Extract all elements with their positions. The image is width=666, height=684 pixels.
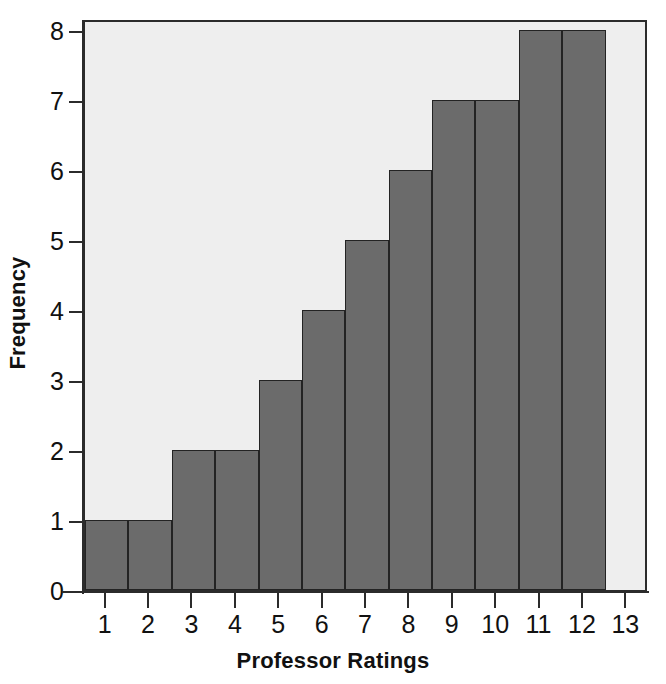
- x-axis-tick: [234, 593, 236, 608]
- histogram-bar: [389, 170, 432, 590]
- x-axis-tick-label: 3: [169, 612, 213, 637]
- x-axis-tick: [277, 593, 279, 608]
- x-axis-tick: [364, 593, 366, 608]
- y-axis-title: Frequency: [5, 233, 31, 393]
- y-axis-tick: [69, 171, 82, 173]
- x-axis-tick: [321, 593, 323, 608]
- y-axis-tick: [69, 31, 82, 33]
- y-axis-tick: [69, 311, 82, 313]
- x-axis-title: Professor Ratings: [0, 648, 666, 674]
- y-axis-tick-label: 8: [30, 19, 64, 44]
- histogram-bar: [519, 30, 562, 590]
- histogram-bar: [475, 100, 518, 590]
- x-axis-tick-label: 2: [126, 612, 170, 637]
- y-axis-tick-label: 1: [30, 509, 64, 534]
- y-axis-tick: [69, 451, 82, 453]
- x-axis-tick: [190, 593, 192, 608]
- x-axis-tick-label: 11: [517, 612, 561, 637]
- histogram-bar: [128, 520, 171, 590]
- x-axis-tick-label: 4: [213, 612, 257, 637]
- histogram-bar: [172, 450, 215, 590]
- y-axis-tick-label: 4: [30, 299, 64, 324]
- x-axis-tick: [624, 593, 626, 608]
- y-axis-tick: [69, 101, 82, 103]
- y-axis-tick: [69, 241, 82, 243]
- y-axis-tick-label: 7: [30, 89, 64, 114]
- plot-area: [83, 20, 647, 592]
- y-axis-tick-label: 3: [30, 369, 64, 394]
- histogram-bar: [215, 450, 258, 590]
- x-axis-tick-label: 7: [343, 612, 387, 637]
- histogram-bar: [345, 240, 388, 590]
- y-axis-tick-label: 0: [30, 579, 64, 604]
- y-axis-tick-label: 5: [30, 229, 64, 254]
- x-axis-tick-label: 9: [430, 612, 474, 637]
- histogram-chart: 012345678 12345678910111213 Frequency Pr…: [0, 0, 666, 684]
- x-axis-tick-label: 10: [473, 612, 517, 637]
- histogram-bar: [432, 100, 475, 590]
- x-axis-tick-label: 13: [603, 612, 647, 637]
- bars-layer: [85, 22, 645, 590]
- y-axis-tick: [69, 381, 82, 383]
- y-axis-tick: [69, 521, 82, 523]
- x-axis-tick: [104, 593, 106, 608]
- x-axis-line: [62, 591, 649, 593]
- y-axis-tick-label: 6: [30, 159, 64, 184]
- x-axis-tick: [581, 593, 583, 608]
- x-axis-tick: [147, 593, 149, 608]
- x-axis-tick: [494, 593, 496, 608]
- x-axis-tick: [407, 593, 409, 608]
- x-axis-tick: [451, 593, 453, 608]
- x-axis-tick-label: 8: [386, 612, 430, 637]
- histogram-bar: [562, 30, 605, 590]
- y-axis-tick-label: 2: [30, 439, 64, 464]
- x-axis-tick-label: 5: [256, 612, 300, 637]
- histogram-bar: [85, 520, 128, 590]
- histogram-bar: [259, 380, 302, 590]
- x-axis-tick-label: 1: [83, 612, 127, 637]
- x-axis-tick: [538, 593, 540, 608]
- y-axis-line: [82, 20, 84, 594]
- x-axis-tick-label: 12: [560, 612, 604, 637]
- x-axis-tick-label: 6: [300, 612, 344, 637]
- histogram-bar: [302, 310, 345, 590]
